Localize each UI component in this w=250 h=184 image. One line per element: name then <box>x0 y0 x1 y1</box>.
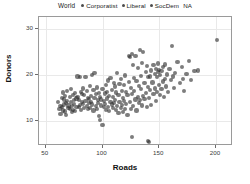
data-point <box>147 96 151 100</box>
data-point <box>123 73 127 77</box>
data-point <box>95 107 99 111</box>
x-tick <box>45 145 46 148</box>
x-tick-label: 150 <box>148 149 168 156</box>
legend-key-icon <box>81 4 84 7</box>
data-point <box>139 74 143 78</box>
data-point <box>172 86 176 90</box>
x-tick-label: 50 <box>35 149 55 156</box>
plot-panel <box>38 16 232 145</box>
data-point <box>100 87 104 91</box>
data-point <box>116 111 120 115</box>
data-point <box>164 84 168 88</box>
data-point <box>159 69 163 73</box>
y-tick <box>35 74 38 75</box>
data-point <box>78 75 82 79</box>
legend-item-socdem[interactable]: SocDem <box>150 2 179 9</box>
data-point <box>140 103 144 107</box>
data-point <box>122 83 126 87</box>
data-point <box>162 95 166 99</box>
legend-title: World <box>58 2 75 9</box>
gridline-horizontal <box>39 121 231 122</box>
data-point <box>63 94 67 98</box>
x-tick <box>215 145 216 148</box>
data-point <box>104 83 108 87</box>
data-point <box>113 84 117 88</box>
data-point <box>88 84 92 88</box>
data-point <box>171 74 175 78</box>
data-point <box>140 61 144 65</box>
data-point <box>64 113 68 117</box>
x-tick <box>158 145 159 148</box>
x-tick <box>102 145 103 148</box>
data-point <box>130 135 134 139</box>
data-point <box>184 72 188 76</box>
y-tick-label: 30 <box>13 24 33 31</box>
data-point <box>95 85 99 89</box>
data-point <box>141 50 145 54</box>
data-point <box>189 78 193 82</box>
data-point <box>158 73 162 77</box>
data-point <box>163 77 167 81</box>
data-point <box>116 93 120 97</box>
data-point <box>169 78 173 82</box>
data-point <box>83 75 87 79</box>
data-point <box>159 87 163 91</box>
data-point <box>154 99 158 103</box>
data-point <box>139 87 143 91</box>
y-tick <box>35 28 38 29</box>
data-point <box>134 108 138 112</box>
data-point <box>163 62 167 66</box>
legend-label-liberal: Liberal <box>127 2 146 9</box>
data-point <box>123 107 127 111</box>
data-point <box>187 59 191 63</box>
data-point <box>117 82 121 86</box>
data-point <box>215 38 219 42</box>
data-point <box>166 90 170 94</box>
data-point <box>145 64 149 68</box>
data-point <box>156 61 160 65</box>
data-point <box>131 63 135 67</box>
x-tick-label: 100 <box>92 149 112 156</box>
legend-item-na[interactable]: NA <box>183 2 192 9</box>
data-point <box>145 105 149 109</box>
y-tick-label: 20 <box>13 70 33 77</box>
data-point <box>149 103 153 107</box>
data-point <box>125 93 129 97</box>
data-point <box>108 76 112 80</box>
y-axis-title: Donors <box>4 39 13 99</box>
legend-key-icon <box>122 4 125 7</box>
data-point <box>133 54 137 58</box>
legend-label-socdem: SocDem <box>155 2 179 9</box>
data-point <box>85 89 89 93</box>
data-point <box>144 91 148 95</box>
data-point <box>125 113 129 117</box>
data-point <box>165 72 169 76</box>
data-point <box>73 109 77 113</box>
data-point <box>147 140 151 144</box>
data-point <box>92 71 96 75</box>
data-point <box>134 79 138 83</box>
x-tick-label: 200 <box>205 149 225 156</box>
y-tick-label: 10 <box>13 116 33 123</box>
data-point <box>69 87 73 91</box>
legend-label-na: NA <box>183 2 192 9</box>
legend: World Corporatist Liberal SocDem NA <box>0 2 250 9</box>
data-point <box>175 60 179 64</box>
legend-label-corporatist: Corporatist <box>86 2 117 9</box>
legend-item-corporatist[interactable]: Corporatist <box>81 2 117 9</box>
gridline-vertical <box>46 17 47 144</box>
data-point <box>58 112 62 116</box>
data-point <box>178 81 182 85</box>
legend-item-liberal[interactable]: Liberal <box>122 2 146 9</box>
gridline-vertical <box>216 17 217 144</box>
data-point <box>144 70 148 74</box>
data-point <box>170 44 174 48</box>
x-axis-title: Roads <box>0 163 250 172</box>
data-point <box>181 77 185 81</box>
data-point <box>148 74 152 78</box>
chart-root: World Corporatist Liberal SocDem NA 5010… <box>0 0 250 184</box>
data-point <box>142 97 146 101</box>
data-point <box>113 98 117 102</box>
data-point <box>182 89 186 93</box>
data-point <box>167 67 171 71</box>
